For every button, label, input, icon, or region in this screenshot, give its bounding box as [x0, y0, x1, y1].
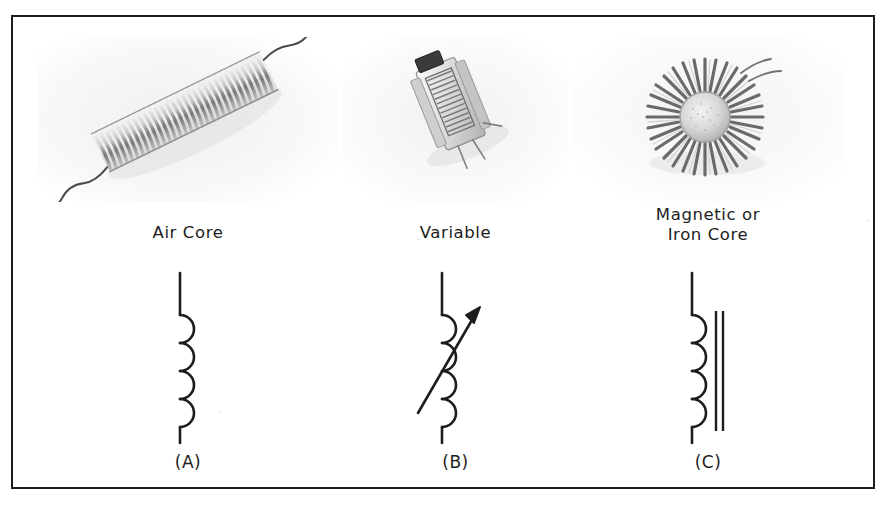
scan-speckle-1: · — [218, 407, 221, 417]
caption-air-core: Air Core — [38, 223, 338, 243]
scan-speckle-2: · — [417, 235, 420, 245]
figure-frame: Air Core (A) — [11, 15, 875, 489]
variable-inductor-photo-graphic — [343, 37, 568, 202]
iron-core-inductor-symbol-graphic — [648, 267, 768, 447]
variable-inductor-symbol — [343, 267, 568, 447]
iron-core-bars — [716, 311, 723, 431]
panel-air-core: Air Core (A) — [38, 37, 338, 477]
caption-iron-core-line-2: Iron Core — [573, 225, 843, 245]
variable-inductor-photo — [343, 37, 568, 202]
caption-iron-core: Magnetic or Iron Core — [573, 205, 843, 245]
ref-label-a: (A) — [38, 452, 338, 472]
caption-variable: Variable — [343, 223, 568, 243]
ref-label-c: (C) — [573, 452, 843, 472]
iron-core-inductor-symbol — [573, 267, 843, 447]
caption-iron-core-line-1: Magnetic or — [573, 205, 843, 225]
air-core-coil-photo-graphic — [38, 37, 338, 202]
ref-label-b: (B) — [343, 452, 568, 472]
toroid-iron-core-coil-photo-graphic — [573, 37, 843, 202]
air-core-coil-photo — [38, 37, 338, 202]
caption-variable-line-1: Variable — [343, 223, 568, 243]
caption-air-core-line-1: Air Core — [38, 223, 338, 243]
panel-iron-core: Magnetic or Iron Core — [573, 37, 843, 477]
air-core-inductor-symbol — [38, 267, 338, 447]
figure-root: Air Core (A) — [0, 0, 886, 516]
panel-variable: Variable — [343, 37, 568, 477]
toroid-iron-core-coil-photo — [573, 37, 843, 202]
air-core-inductor-symbol-graphic — [128, 267, 248, 447]
scan-speckle-3: · — [866, 216, 869, 226]
variable-inductor-symbol-graphic — [396, 267, 516, 447]
